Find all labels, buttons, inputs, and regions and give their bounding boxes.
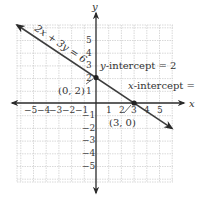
svg-text:−3: −3: [49, 105, 63, 115]
svg-text:−5: −5: [24, 105, 38, 115]
x-axis-label: x: [189, 98, 195, 109]
point-label-y-intercept: (0, 2): [58, 85, 85, 96]
y-axis-label: y: [91, 1, 98, 12]
y-intercept-point: [93, 75, 98, 80]
svg-text:1: 1: [86, 86, 92, 96]
x-intercept-annotation: x-intercept = 3: [128, 80, 198, 91]
svg-text:−3: −3: [82, 135, 96, 145]
svg-text:5: 5: [86, 35, 92, 45]
pointer-to-x-intercept: [124, 105, 131, 113]
svg-text:−2: −2: [82, 123, 95, 133]
point-label-x-intercept: (3, 0): [109, 117, 136, 128]
svg-text:2: 2: [86, 73, 92, 83]
svg-text:−1: −1: [82, 110, 95, 120]
svg-text:−5: −5: [82, 161, 96, 171]
svg-text:−2: −2: [62, 105, 75, 115]
equation-label: 2x + 3y = 6: [32, 22, 89, 65]
svg-text:5: 5: [157, 105, 163, 115]
y-intercept-annotation: y-intercept = 2: [99, 60, 176, 71]
coordinate-plane: y x −5 −4 −3 −2 −1 1 2 3 4 5 5 4 3 2 1 −…: [0, 0, 198, 207]
svg-text:3: 3: [131, 105, 137, 115]
svg-text:−4: −4: [82, 148, 96, 158]
svg-text:3: 3: [86, 60, 92, 70]
svg-text:1: 1: [106, 105, 112, 115]
svg-text:2: 2: [119, 105, 125, 115]
svg-text:4: 4: [144, 105, 150, 115]
